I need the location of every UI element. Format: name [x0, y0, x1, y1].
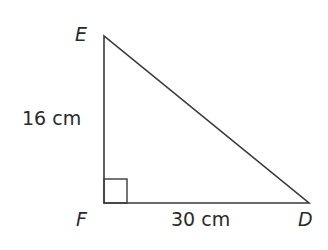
side-label-FD: 30 cm: [171, 210, 230, 229]
vertex-label-D: D: [298, 210, 313, 229]
vertex-label-F: F: [76, 210, 87, 229]
triangle-EFD: [104, 36, 309, 203]
right-angle-marker: [104, 179, 127, 203]
vertex-label-E: E: [75, 25, 87, 44]
side-label-EF: 16 cm: [22, 109, 81, 128]
